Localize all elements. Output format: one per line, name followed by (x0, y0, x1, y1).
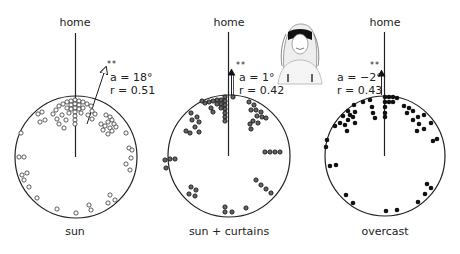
bearing-dot (67, 111, 71, 115)
bearing-dot (361, 100, 366, 105)
bearing-dot (73, 106, 77, 110)
bearing-dot (193, 125, 197, 129)
bearing-dot (17, 155, 21, 159)
bearing-dot (194, 188, 198, 192)
bearing-dot (51, 112, 55, 116)
bearing-dot (101, 128, 105, 132)
bearing-dot (346, 109, 351, 114)
bearing-dot (35, 196, 39, 200)
bearing-dots (324, 95, 440, 214)
bearing-dot (40, 110, 44, 114)
bearing-dot (69, 99, 73, 103)
bearing-dot (264, 187, 268, 191)
bearing-dot (338, 121, 343, 126)
bearing-dot (197, 130, 201, 134)
bearing-dot (373, 116, 378, 121)
bearing-dot (395, 208, 400, 213)
bearing-dot (130, 148, 134, 152)
bearing-dot (129, 156, 133, 160)
bearing-dot (211, 110, 215, 114)
bearing-dot (387, 100, 392, 105)
bearing-dot (415, 129, 420, 134)
bearing-dot (20, 173, 24, 177)
bearing-dot (252, 103, 256, 107)
bearing-dot (391, 100, 396, 105)
bearing-dot (89, 208, 93, 212)
bearing-dot (86, 113, 90, 117)
bearing-dot (104, 113, 108, 117)
bearing-dot (254, 178, 258, 182)
bearing-dot (189, 185, 193, 189)
bearing-dot (402, 104, 407, 109)
bearing-dot (431, 139, 436, 144)
bearing-dot (353, 110, 358, 115)
bearing-dot (422, 113, 427, 118)
bearing-dot (249, 127, 253, 131)
bearing-dot (73, 98, 77, 102)
bearing-dot (89, 104, 93, 108)
bearing-dot (69, 107, 73, 111)
bearing-dot (254, 108, 258, 112)
bearing-dot (249, 108, 253, 112)
bearing-dot (346, 118, 351, 123)
bearing-dot (422, 127, 427, 132)
bearing-dot (351, 201, 356, 206)
bearing-dot (27, 185, 31, 189)
mean-vector-length-label: r = 0.43 (337, 85, 382, 97)
bearing-dot (352, 103, 357, 108)
bearing-dot (73, 122, 77, 126)
bearing-dot (341, 114, 346, 119)
bearing-dot (19, 131, 23, 135)
bearing-dot (108, 193, 112, 197)
bearing-dot (74, 211, 78, 215)
bearing-dot (55, 207, 59, 211)
bearing-dot (65, 106, 69, 110)
bearing-dots (163, 95, 282, 214)
bearing-dot (395, 96, 400, 101)
bearing-dot (87, 203, 91, 207)
blindfolded-person-icon (278, 24, 322, 84)
bearing-dot (325, 138, 330, 143)
significance-marker: ** (107, 59, 117, 71)
panel-overcast (324, 32, 445, 216)
bearing-dot (223, 205, 227, 209)
bearing-dot (411, 109, 416, 114)
bearing-dot (351, 115, 356, 120)
bearing-dot (106, 201, 110, 205)
panel-sun (15, 33, 137, 218)
bearing-dot (368, 98, 373, 103)
bearing-dot (113, 198, 117, 202)
bearing-dot (73, 102, 77, 106)
bearing-dot (429, 121, 434, 126)
bearing-dot (259, 110, 263, 114)
bearing-dot (73, 118, 77, 122)
bearing-dot (383, 111, 388, 116)
bearing-dot (278, 150, 282, 154)
bearing-dot (114, 125, 118, 129)
bearing-dot (106, 120, 110, 124)
bearing-dot (73, 110, 77, 114)
home-label: home (213, 17, 244, 29)
bearing-dot (193, 194, 197, 198)
bearing-dot (353, 121, 358, 126)
bearing-dot (64, 118, 68, 122)
bearing-dot (187, 192, 191, 196)
bearing-dot (36, 112, 40, 116)
bearing-dot (411, 118, 416, 123)
bearing-dot (370, 105, 375, 110)
bearing-dot (25, 171, 29, 175)
home-label: home (59, 17, 90, 29)
bearing-dot (99, 122, 103, 126)
bearing-dot (416, 200, 421, 205)
bearing-dot (190, 118, 194, 122)
bearing-dot (173, 157, 177, 161)
bearing-dot (184, 129, 188, 133)
bearing-dot (425, 182, 430, 187)
bearing-dot (55, 117, 59, 121)
bearing-dot (164, 166, 168, 170)
bearing-dot (429, 186, 434, 191)
bearing-dot (387, 95, 392, 100)
bearing-dot (69, 103, 73, 107)
bearing-dot (77, 99, 81, 103)
bearing-dot (248, 122, 252, 126)
